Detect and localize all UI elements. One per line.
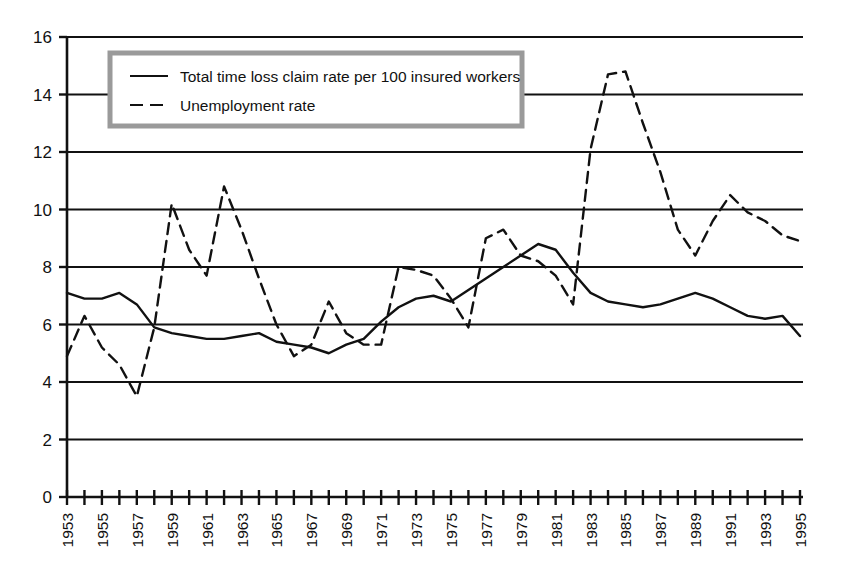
- series-line-total-claim-rate: [67, 244, 800, 353]
- x-tick-label-1961: 1961: [199, 513, 216, 547]
- x-tick-labels: 1953195519571959196119631965196719691971…: [59, 513, 809, 547]
- x-tick-label-1953: 1953: [59, 513, 76, 547]
- chart-legend: Total time loss claim rate per 100 insur…: [110, 53, 522, 126]
- x-tick-label-1965: 1965: [268, 513, 285, 547]
- x-tick-label-1987: 1987: [652, 513, 669, 547]
- x-tick-label-1957: 1957: [129, 513, 146, 547]
- y-tick-label-14: 14: [33, 86, 52, 105]
- y-tick-label-6: 6: [43, 316, 52, 335]
- x-tick-label-1955: 1955: [94, 513, 111, 547]
- x-tick-label-1963: 1963: [234, 513, 251, 547]
- x-tick-label-1979: 1979: [513, 513, 530, 547]
- y-tick-label-10: 10: [33, 201, 52, 220]
- x-tick-label-1989: 1989: [687, 513, 704, 547]
- x-tick-label-1969: 1969: [338, 513, 355, 547]
- chart-canvas: 0246810121416 19531955195719591961196319…: [0, 0, 842, 581]
- y-tick-label-8: 8: [43, 258, 52, 277]
- y-tick-label-0: 0: [43, 488, 52, 507]
- x-tick-label-1993: 1993: [757, 513, 774, 547]
- y-tick-label-12: 12: [33, 143, 52, 162]
- x-tick-label-1975: 1975: [443, 513, 460, 547]
- y-tick-labels: 0246810121416: [33, 28, 52, 507]
- x-tick-label-1995: 1995: [792, 513, 809, 547]
- x-tick-label-1959: 1959: [164, 513, 181, 547]
- y-tick-label-2: 2: [43, 431, 52, 450]
- line-chart: 0246810121416 19531955195719591961196319…: [0, 0, 842, 581]
- x-tick-label-1991: 1991: [722, 513, 739, 547]
- x-tick-label-1981: 1981: [548, 513, 565, 547]
- x-tick-label-1977: 1977: [478, 513, 495, 547]
- x-tick-label-1985: 1985: [617, 513, 634, 547]
- x-tick-label-1971: 1971: [373, 513, 390, 547]
- x-tick-label-1973: 1973: [408, 513, 425, 547]
- x-tick-label-1983: 1983: [583, 513, 600, 547]
- legend-box: [110, 53, 522, 126]
- legend-label-unemployment-rate: Unemployment rate: [180, 97, 315, 114]
- y-tick-label-4: 4: [43, 373, 52, 392]
- x-tick-label-1967: 1967: [303, 513, 320, 547]
- legend-label-total-claim-rate: Total time loss claim rate per 100 insur…: [180, 68, 521, 85]
- y-tick-label-16: 16: [33, 28, 52, 47]
